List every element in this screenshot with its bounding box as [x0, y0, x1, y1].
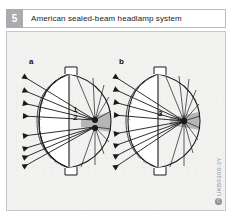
panel-b-top-socket: [154, 67, 166, 75]
panel-a-filament-2: [92, 125, 98, 131]
credit-block: UKB0300-3Y ©: [215, 157, 222, 205]
figure-page: 5 American sealed-beam headlamp system: [0, 0, 232, 218]
figure-frame: a b 1 2 3 UKB0300-3Y ©: [6, 31, 226, 211]
panel-a-filament-1: [92, 117, 98, 123]
figure-header: 5 American sealed-beam headlamp system: [6, 9, 226, 28]
panel-b-bottom-socket: [154, 167, 166, 175]
panel-a-bottom-socket: [65, 167, 77, 175]
callout-3: 3: [158, 110, 162, 118]
panel-a-top-socket: [65, 67, 77, 75]
panel-b-filament-3: [181, 118, 187, 124]
headlamp-diagram-svg: [7, 32, 225, 210]
copyright-icon: ©: [215, 198, 222, 205]
panel-label-a: a: [29, 58, 33, 66]
panel-label-b: b: [119, 58, 124, 66]
figure-number-badge: 5: [6, 9, 23, 28]
headlamp-diagram: [7, 32, 225, 210]
callout-2: 2: [73, 114, 77, 122]
credit-code: UKB0300-3Y: [216, 157, 222, 196]
figure-title: American sealed-beam headlamp system: [23, 9, 226, 28]
